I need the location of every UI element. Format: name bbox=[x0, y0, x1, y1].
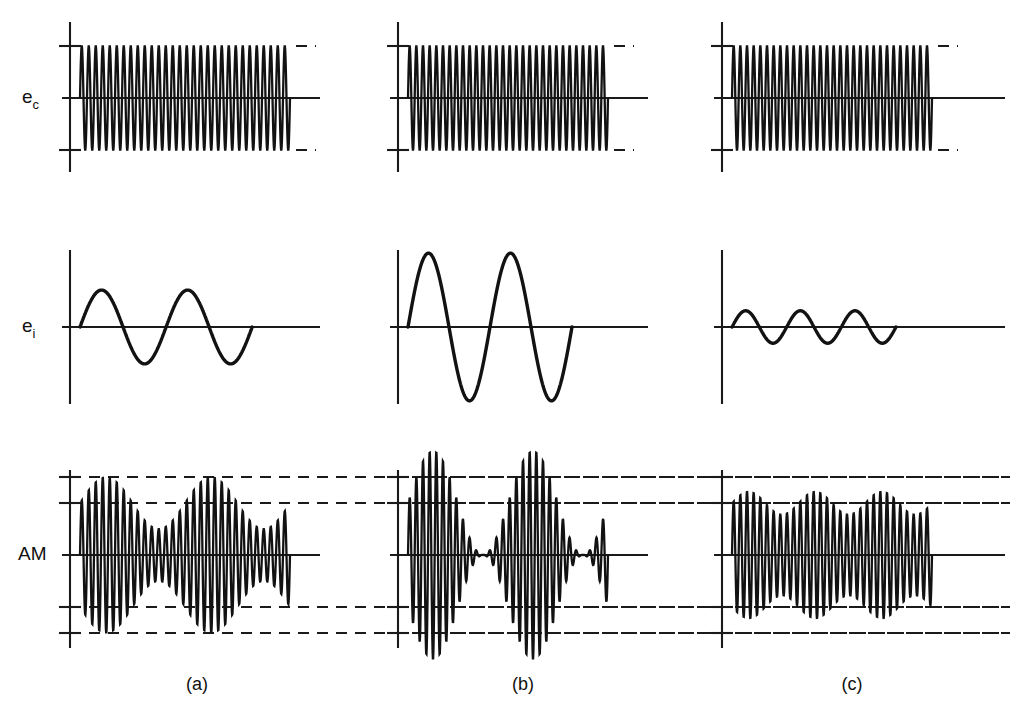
column-label-a: (a) bbox=[186, 674, 208, 694]
row-label-base-information: e bbox=[22, 315, 33, 336]
carrier-b bbox=[408, 46, 608, 149]
carrier-c bbox=[732, 46, 932, 149]
am-waveform-figure: eceiAM(a)(b)(c) bbox=[0, 0, 1021, 725]
row-label-subscript-carrier: c bbox=[33, 97, 40, 112]
column-label-b: (b) bbox=[512, 674, 534, 694]
row-label-base-carrier: e bbox=[22, 86, 33, 107]
carrier-a bbox=[80, 46, 290, 149]
row-label-base-am: AM bbox=[18, 543, 47, 564]
column-label-c: (c) bbox=[842, 674, 863, 694]
row-label-am: AM bbox=[18, 543, 47, 564]
row-label-subscript-information: i bbox=[33, 326, 36, 341]
